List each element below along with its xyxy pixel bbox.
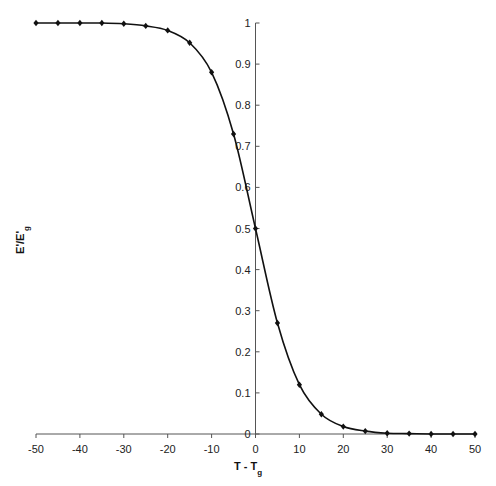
y-tick-label: 1 (244, 17, 250, 29)
x-tick-label: 50 (469, 443, 481, 455)
y-tick-label: 0.1 (235, 387, 250, 399)
y-tick-label: 0.3 (235, 305, 250, 317)
x-axis-title: T - Tg (234, 460, 262, 477)
x-tick-label: 10 (293, 443, 305, 455)
data-point-marker (121, 21, 126, 27)
data-point-marker (231, 131, 236, 137)
data-point-marker (407, 430, 412, 436)
x-tick-label: -40 (72, 443, 88, 455)
y-tick-label: 0.6 (235, 181, 250, 193)
data-point-marker (275, 320, 280, 326)
x-axis-ticks: -50-40-30-20-1001020304050 (28, 434, 481, 455)
y-axis-title: E'/E'g (14, 226, 31, 254)
y-tick-label: 0 (244, 428, 250, 440)
data-point-marker (472, 431, 477, 437)
data-point-marker (143, 23, 148, 29)
x-tick-label: 30 (381, 443, 393, 455)
data-point-marker (385, 430, 390, 436)
data-point-marker (55, 20, 60, 26)
y-tick-label: 0.2 (235, 346, 250, 358)
x-tick-label: 40 (425, 443, 437, 455)
x-tick-label: -50 (28, 443, 44, 455)
data-point-marker (341, 423, 346, 429)
data-point-marker (165, 27, 170, 33)
y-tick-label: 0.5 (235, 223, 250, 235)
y-tick-label: 0.4 (235, 264, 250, 276)
data-point-marker (77, 20, 82, 26)
data-point-marker (99, 20, 104, 26)
x-tick-label: 20 (337, 443, 349, 455)
data-point-marker (450, 431, 455, 437)
y-tick-label: 0.9 (235, 58, 250, 70)
sigmoid-chart: -50-40-30-20-1001020304050 00.10.20.30.4… (0, 0, 496, 486)
x-tick-label: 0 (252, 443, 258, 455)
data-point-marker (429, 431, 434, 437)
data-point-marker (363, 428, 368, 434)
data-point-marker (33, 20, 38, 26)
x-tick-label: -30 (116, 443, 132, 455)
y-tick-label: 0.8 (235, 99, 250, 111)
x-tick-label: -20 (160, 443, 176, 455)
x-tick-label: -10 (204, 443, 220, 455)
data-point-marker (253, 225, 258, 231)
